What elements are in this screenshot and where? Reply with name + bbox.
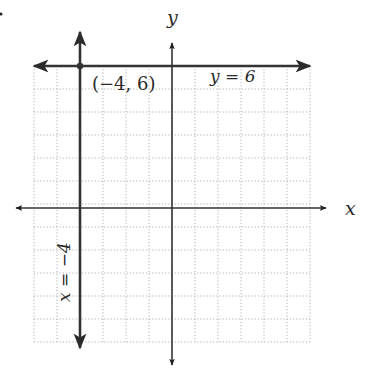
point-label: (−4, 6): [92, 73, 155, 94]
horizontal-line-label: y = 6: [209, 66, 256, 86]
intersection-point: [77, 63, 83, 69]
x-axis-label: x: [345, 197, 356, 219]
coordinate-graph: y x (−4, 6) y = 6 x = −4: [0, 0, 380, 373]
bullet-marker: [0, 13, 3, 16]
vertical-line-label: x = −4: [54, 242, 74, 302]
y-axis-label: y: [166, 6, 178, 28]
